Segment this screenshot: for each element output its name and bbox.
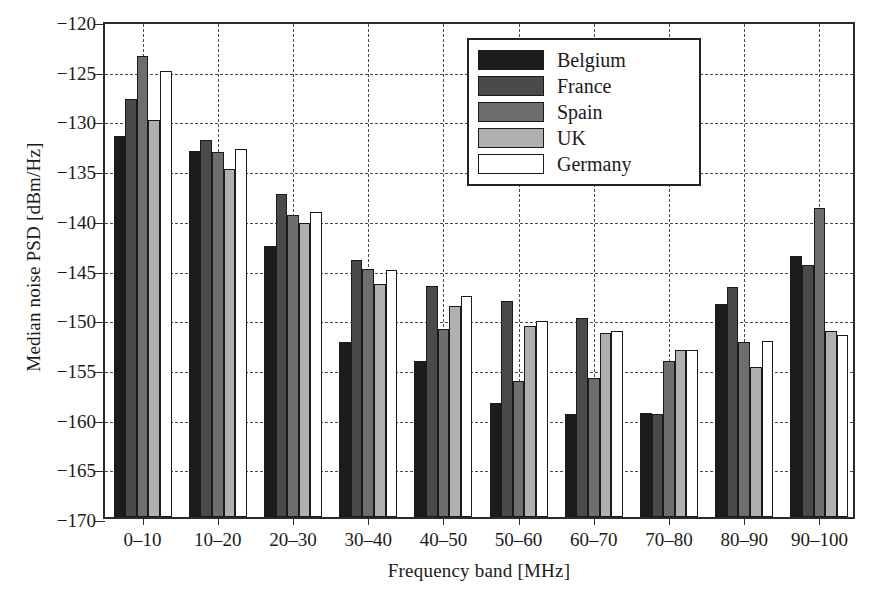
legend-swatch-germany xyxy=(478,154,544,174)
legend-label: Germany xyxy=(557,154,631,174)
y-axis-tick xyxy=(95,322,105,323)
bar-germany xyxy=(461,296,473,517)
legend-swatch-france xyxy=(478,76,544,96)
bar-spain xyxy=(513,381,525,517)
y-axis-tick xyxy=(95,471,105,472)
x-axis-tick xyxy=(594,517,595,525)
bar-germany xyxy=(536,321,548,517)
bar-uk xyxy=(148,120,160,517)
y-axis-tick-label: −130 xyxy=(57,112,96,134)
legend-swatch-spain xyxy=(478,102,544,122)
bar-belgium xyxy=(264,246,276,517)
bar-uk xyxy=(524,326,536,517)
y-axis-tick-label: −140 xyxy=(57,212,96,234)
y-axis-tick-label: −135 xyxy=(57,162,96,184)
bar-germany xyxy=(386,270,398,518)
bar-uk xyxy=(750,367,762,517)
x-axis-tick-label: 40–50 xyxy=(420,529,468,551)
x-axis-title: Frequency band [MHz] xyxy=(103,560,855,582)
y-axis-tick-label: −170 xyxy=(57,510,96,532)
bar-spain xyxy=(362,269,374,518)
legend-label: France xyxy=(557,76,611,96)
y-axis-tick-label: −160 xyxy=(57,411,96,433)
x-axis-tick-label: 50–60 xyxy=(495,529,543,551)
bar-belgium xyxy=(565,414,577,517)
x-axis-tick xyxy=(368,517,369,525)
y-axis-tick-label: −125 xyxy=(57,63,96,85)
legend-item-uk[interactable]: UK xyxy=(478,125,690,151)
bar-spain xyxy=(663,361,675,517)
bar-belgium xyxy=(414,361,426,517)
legend-swatch-uk xyxy=(478,128,544,148)
y-axis-tick xyxy=(95,372,105,373)
bar-spain xyxy=(438,329,450,517)
bar-uk xyxy=(449,306,461,517)
bar-germany xyxy=(310,212,322,517)
y-axis-tick xyxy=(95,223,105,224)
x-axis-tick xyxy=(293,517,294,525)
bar-uk xyxy=(299,223,311,517)
bar-belgium xyxy=(790,256,802,517)
bar-uk xyxy=(825,331,837,517)
y-axis-tick-label: −120 xyxy=(57,13,96,35)
bar-germany xyxy=(611,331,623,517)
bar-belgium xyxy=(189,151,201,517)
y-axis-tick-label: −145 xyxy=(57,262,96,284)
x-axis-tick xyxy=(143,517,144,525)
bar-uk xyxy=(600,333,612,517)
bar-germany xyxy=(235,149,247,517)
x-axis-tick-label: 20–30 xyxy=(269,529,317,551)
bar-france xyxy=(576,318,588,517)
x-axis-tick xyxy=(218,517,219,525)
y-axis-tick xyxy=(95,173,105,174)
bar-uk xyxy=(675,350,687,517)
x-axis-tick-label: 0–10 xyxy=(124,529,162,551)
bar-germany xyxy=(762,341,774,517)
y-axis-tick-label: −165 xyxy=(57,460,96,482)
bar-uk xyxy=(224,169,236,517)
legend-item-germany[interactable]: Germany xyxy=(478,151,690,177)
bar-germany xyxy=(837,335,849,517)
y-axis-tick xyxy=(95,123,105,124)
bar-belgium xyxy=(640,413,652,517)
y-axis-tick xyxy=(95,521,105,522)
bar-france xyxy=(351,260,363,517)
x-axis-tick-label: 80–90 xyxy=(720,529,768,551)
bar-belgium xyxy=(114,136,126,517)
bar-germany xyxy=(160,71,172,517)
x-axis-tick xyxy=(519,517,520,525)
x-axis-tick-label: 30–40 xyxy=(344,529,392,551)
x-axis-tick xyxy=(819,517,820,525)
y-axis-tick xyxy=(95,422,105,423)
legend-label: UK xyxy=(557,128,586,148)
y-axis-title: Median noise PSD [dBm/Hz] xyxy=(23,27,45,487)
bar-spain xyxy=(588,378,600,517)
chart-figure: Median noise PSD [dBm/Hz] Frequency band… xyxy=(0,0,872,604)
bar-france xyxy=(802,265,814,517)
legend-item-belgium[interactable]: Belgium xyxy=(478,47,690,73)
x-axis-tick-label: 60–70 xyxy=(570,529,618,551)
bar-france xyxy=(200,140,212,517)
bar-france xyxy=(652,414,664,517)
x-axis-tick-label: 70–80 xyxy=(645,529,693,551)
bar-france xyxy=(727,287,739,517)
bar-france xyxy=(426,286,438,517)
x-axis-tick xyxy=(443,517,444,525)
bar-spain xyxy=(137,56,149,517)
bar-belgium xyxy=(339,342,351,517)
y-axis-tick-label: −150 xyxy=(57,311,96,333)
bar-germany xyxy=(686,350,698,517)
x-axis-tick-label: 90–100 xyxy=(791,529,848,551)
legend-item-france[interactable]: France xyxy=(478,73,690,99)
bar-spain xyxy=(738,342,750,517)
bar-spain xyxy=(212,152,224,517)
legend-swatch-belgium xyxy=(478,50,544,70)
legend-label: Spain xyxy=(557,102,603,122)
x-axis-tick xyxy=(744,517,745,525)
y-axis-tick-label: −155 xyxy=(57,361,96,383)
legend-item-spain[interactable]: Spain xyxy=(478,99,690,125)
bar-france xyxy=(125,99,137,517)
bar-uk xyxy=(374,284,386,517)
y-axis-tick xyxy=(95,24,105,25)
y-axis-tick xyxy=(95,273,105,274)
